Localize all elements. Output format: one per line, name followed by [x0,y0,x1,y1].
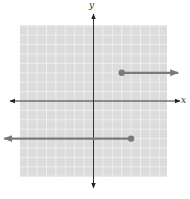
closed-dot-0 [119,70,125,76]
y-axis-label: y [89,0,94,10]
x-axis-label: x [181,95,186,105]
closed-dot-1 [128,135,134,141]
coordinate-plane [0,0,190,199]
